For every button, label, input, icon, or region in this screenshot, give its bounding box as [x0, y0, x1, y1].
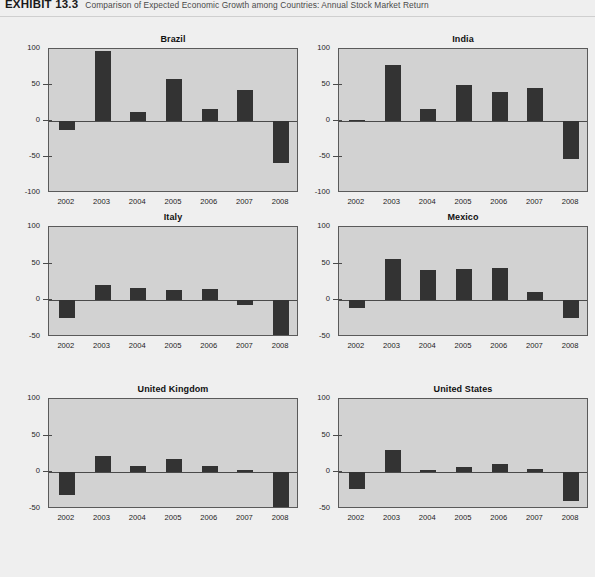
- y-tick-mark: [43, 471, 52, 472]
- y-tick-label: -50: [18, 503, 40, 512]
- bar-2008: [273, 121, 289, 163]
- y-tick-label: 100: [18, 43, 40, 52]
- bar-2003: [95, 285, 111, 300]
- y-tick-label: -100: [18, 187, 40, 196]
- bar-2002: [349, 472, 365, 489]
- bar-2008: [563, 300, 579, 318]
- bar-2008: [273, 300, 289, 336]
- chart-panel-united-kingdom: United Kingdom100500-5020022003200420052…: [18, 384, 298, 526]
- bar-2003: [385, 450, 401, 473]
- y-tick-mark: [43, 263, 52, 264]
- bar-2007: [527, 469, 543, 473]
- plot-area: [338, 48, 588, 192]
- y-tick-label: 0: [18, 115, 40, 124]
- bar-2005: [456, 85, 472, 121]
- bar-2005: [166, 459, 182, 472]
- plot-area: [338, 226, 588, 336]
- chart-panel-title: United States: [338, 384, 588, 394]
- chart-panel-united-states: United States100500-50200220032004200520…: [308, 384, 588, 526]
- x-tick-label: 2003: [374, 341, 410, 350]
- y-tick-label: 0: [18, 466, 40, 475]
- bar-2003: [385, 259, 401, 301]
- y-tick-label: 100: [308, 43, 330, 52]
- x-tick-label: 2007: [517, 513, 553, 522]
- bar-2008: [563, 472, 579, 501]
- plot-area: [48, 398, 298, 508]
- chart-panel-india: India100500-50-1002002200320042005200620…: [308, 34, 588, 210]
- x-tick-label: 2002: [48, 197, 84, 206]
- y-tick-label: 0: [18, 294, 40, 303]
- y-tick-mark: [333, 435, 342, 436]
- bar-2008: [273, 472, 289, 508]
- x-tick-label: 2003: [374, 197, 410, 206]
- chart-panel-brazil: Brazil100500-50-100200220032004200520062…: [18, 34, 298, 210]
- x-tick-label: 2002: [48, 341, 84, 350]
- y-tick-label: 50: [18, 79, 40, 88]
- bar-2007: [527, 292, 543, 300]
- y-tick-label: 100: [18, 221, 40, 230]
- x-tick-label: 2006: [481, 197, 517, 206]
- bar-2005: [166, 290, 182, 300]
- bar-2002: [59, 472, 75, 495]
- plot-area: [48, 226, 298, 336]
- y-tick-label: 0: [308, 115, 330, 124]
- y-tick-mark: [43, 120, 52, 121]
- x-tick-label: 2003: [84, 513, 120, 522]
- exhibit-number-label: EXHIBIT 13.3: [5, 0, 78, 10]
- y-tick-mark: [333, 120, 342, 121]
- plot-area: [338, 398, 588, 508]
- bar-2006: [202, 289, 218, 301]
- y-tick-label: 50: [18, 430, 40, 439]
- y-tick-label: 0: [308, 466, 330, 475]
- y-tick-label: 50: [308, 430, 330, 439]
- chart-panel-title: Brazil: [48, 34, 298, 44]
- x-tick-label: 2006: [481, 513, 517, 522]
- y-tick-mark: [333, 299, 342, 300]
- chart-panel-grid: Brazil100500-50-100200220032004200520062…: [0, 22, 595, 574]
- x-tick-label: 2005: [445, 197, 481, 206]
- x-tick-label: 2005: [155, 341, 191, 350]
- bar-2006: [492, 92, 508, 121]
- x-tick-label: 2008: [552, 513, 588, 522]
- x-tick-label: 2008: [552, 197, 588, 206]
- x-tick-label: 2007: [227, 341, 263, 350]
- zero-axis-line: [49, 472, 297, 473]
- x-tick-label: 2004: [119, 341, 155, 350]
- bar-2003: [95, 456, 111, 472]
- x-tick-label: 2007: [517, 341, 553, 350]
- bar-2007: [237, 300, 253, 305]
- x-tick-label: 2005: [155, 197, 191, 206]
- x-tick-label: 2004: [409, 197, 445, 206]
- y-tick-label: -50: [18, 331, 40, 340]
- exhibit-caption: Comparison of Expected Economic Growth a…: [85, 0, 428, 10]
- bar-2007: [237, 90, 253, 121]
- y-tick-label: 50: [308, 79, 330, 88]
- bar-2007: [527, 88, 543, 121]
- y-tick-label: 50: [308, 258, 330, 267]
- y-tick-label: -100: [308, 187, 330, 196]
- y-tick-label: -50: [18, 151, 40, 160]
- bar-2006: [492, 464, 508, 472]
- bar-2002: [349, 300, 365, 308]
- bar-2005: [456, 269, 472, 301]
- bar-2005: [456, 467, 472, 472]
- bar-2007: [237, 470, 253, 472]
- y-tick-mark: [43, 299, 52, 300]
- y-tick-mark: [43, 156, 52, 157]
- bar-2002: [349, 120, 365, 121]
- plot-area: [48, 48, 298, 192]
- x-tick-label: 2006: [481, 341, 517, 350]
- bar-2006: [492, 268, 508, 300]
- bar-2004: [130, 112, 146, 121]
- chart-panel-title: Mexico: [338, 212, 588, 222]
- x-tick-label: 2007: [517, 197, 553, 206]
- chart-panel-italy: Italy100500-5020022003200420052006200720…: [18, 212, 298, 354]
- bar-2002: [59, 121, 75, 130]
- header-divider: [0, 16, 595, 17]
- x-tick-label: 2006: [191, 197, 227, 206]
- x-tick-label: 2005: [445, 341, 481, 350]
- x-tick-label: 2007: [227, 197, 263, 206]
- x-tick-label: 2004: [119, 513, 155, 522]
- y-tick-mark: [43, 84, 52, 85]
- x-tick-label: 2008: [262, 197, 298, 206]
